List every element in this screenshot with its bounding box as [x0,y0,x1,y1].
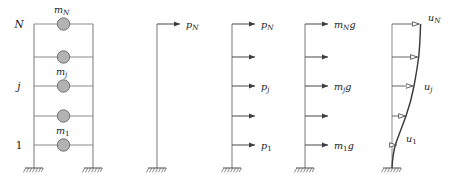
force-label-m1g: m1g [334,140,354,153]
panel-gravity-forces: mNg mjg m1g [294,19,355,173]
fixed-support-left [23,168,43,172]
structural-diagram-svg: N j 1 mN mj m1 pN [0,0,460,186]
panel-force-distribution: pN pj p1 [221,19,274,173]
figure-canvas: N j 1 mN mj m1 pN [0,0,460,186]
force-label-mNg: mNg [334,19,356,32]
force-label-pN: pN [186,19,199,32]
deflected-shape-curve [392,24,421,168]
level-label-1: 1 [16,139,23,151]
displacement-label-uj: uj [424,81,433,94]
panel-frame-masses: N j 1 mN mj m1 [13,4,102,172]
fixed-support [221,168,241,172]
force-label-pN: pN [261,19,274,32]
fixed-support [146,168,166,172]
level-label-N: N [13,18,24,30]
panel-single-force: pN [146,19,199,173]
force-label-mjg: mjg [334,81,352,94]
frame-level-labels: N j 1 [13,18,24,151]
fixed-support-right [82,168,102,172]
displacement-label-u1: u1 [406,133,417,146]
panel-deflected-shape: uN uj u1 [381,12,441,172]
frame-supports [23,168,102,172]
mass-label-m1: m1 [56,125,70,138]
fixed-support [294,168,314,172]
force-label-p1: p1 [261,140,272,153]
mass-label-mj: mj [56,66,68,79]
fixed-support [381,168,401,172]
level-label-j: j [15,80,21,92]
displacement-label-uN: uN [428,12,441,25]
mass-label-mN: mN [54,4,70,17]
force-label-pj: pj [261,81,270,94]
